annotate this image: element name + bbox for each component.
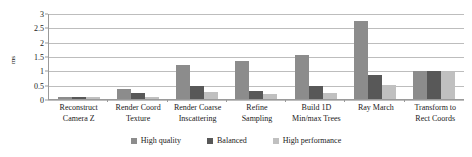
y-tick-label: 0.5 [14, 81, 44, 90]
legend-swatch-icon [273, 138, 279, 144]
legend-item[interactable]: Balanced [207, 136, 247, 145]
bar [235, 61, 249, 99]
bar [145, 97, 159, 99]
bar [117, 89, 131, 99]
x-axis-labels: ReconstructCamera ZRender CoordTextureRe… [49, 103, 465, 124]
legend-item[interactable]: High quality [131, 136, 181, 145]
x-axis-label-line: Rect Coords [407, 114, 464, 125]
x-tick-mark [107, 99, 108, 102]
bar [309, 86, 323, 99]
x-axis-label-line: Refine [228, 103, 285, 114]
x-axis-label: ReconstructCamera Z [49, 103, 108, 124]
bar [263, 94, 277, 99]
x-axis-label-line: Texture [109, 114, 166, 125]
bar [86, 97, 100, 99]
x-tick-mark [285, 99, 286, 102]
x-axis-label-line: Camera Z [50, 114, 107, 125]
y-tick-label: 2.5 [14, 24, 44, 33]
x-axis-label-line: Reconstruct [50, 103, 107, 114]
bar-group [108, 14, 167, 99]
bar-group [345, 14, 404, 99]
x-axis-label-line: Min/max Trees [288, 114, 345, 125]
x-tick-mark [167, 99, 168, 102]
bar [72, 97, 86, 99]
x-axis-label-line: Render Coord [109, 103, 166, 114]
x-axis-line [48, 99, 464, 100]
legend-swatch-icon [131, 138, 137, 144]
bar [249, 91, 263, 100]
legend-item[interactable]: High performance [273, 136, 341, 145]
bar [413, 71, 427, 99]
x-axis-label: Render CoordTexture [108, 103, 167, 124]
legend-label: High performance [283, 136, 341, 145]
y-tick-label: 3 [14, 10, 44, 19]
x-tick-mark [226, 99, 227, 102]
x-tick-mark [344, 99, 345, 102]
bar [427, 71, 441, 99]
y-tick-label: 0 [14, 96, 44, 105]
legend-label: High quality [141, 136, 181, 145]
bar-chart: ms 00.511.522.53 ReconstructCamera ZRend… [0, 0, 472, 157]
y-tick-label: 1.5 [14, 53, 44, 62]
x-axis-label-line: Inscattering [169, 114, 226, 125]
bar-group [286, 14, 345, 99]
x-axis-label-line: Transform to [407, 103, 464, 114]
bar [441, 72, 455, 99]
bar [354, 21, 368, 99]
x-axis-label: Build 1DMin/max Trees [287, 103, 346, 124]
bar [295, 55, 309, 99]
bar-group [168, 14, 227, 99]
bar [323, 93, 337, 99]
x-axis-label-line: Build 1D [288, 103, 345, 114]
bar [176, 65, 190, 99]
plot-area: 00.511.522.53 [48, 14, 464, 100]
x-tick-mark [404, 99, 405, 102]
bar-group [49, 14, 108, 99]
bar [58, 97, 72, 99]
y-tick-label: 1 [14, 67, 44, 76]
bar-group [227, 14, 286, 99]
legend-label: Balanced [217, 136, 247, 145]
x-axis-label: Render CoarseInscattering [168, 103, 227, 124]
bar [204, 92, 218, 99]
x-axis-label-line: Render Coarse [169, 103, 226, 114]
bar [382, 85, 396, 99]
x-axis-label-line: Sampling [228, 114, 285, 125]
bar-group [405, 14, 464, 99]
y-tick-label: 2 [14, 38, 44, 47]
x-axis-label: RefineSampling [227, 103, 286, 124]
x-axis-label: Transform toRect Coords [406, 103, 465, 124]
x-axis-label: Ray March [346, 103, 405, 124]
chart-legend: High qualityBalancedHigh performance [0, 136, 472, 145]
bar [190, 86, 204, 99]
bar-groups [49, 14, 464, 99]
legend-swatch-icon [207, 138, 213, 144]
gridline [48, 100, 464, 101]
bar [131, 93, 145, 99]
bar [368, 75, 382, 99]
x-axis-label-line: Ray March [347, 103, 404, 114]
